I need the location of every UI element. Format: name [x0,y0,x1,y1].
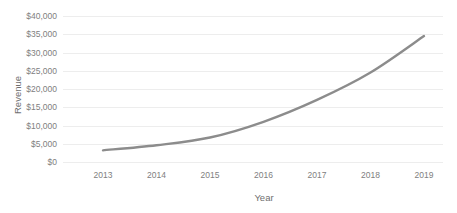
x-axis-tick-label: 2016 [254,170,273,180]
x-axis-tick-label: 2018 [361,170,380,180]
revenue-line-chart: $0$5,000$10,000$15,000$20,000$25,000$30,… [0,0,457,213]
x-axis-tick-label: 2019 [415,170,434,180]
y-axis-tick-label: $0 [48,157,58,167]
y-axis-tick-label: $35,000 [26,29,57,39]
chart-background [0,0,457,213]
y-axis-tick-labels: $0$5,000$10,000$15,000$20,000$25,000$30,… [26,11,57,167]
y-axis-tick-label: $10,000 [26,121,57,131]
x-axis-tick-label: 2017 [308,170,327,180]
y-axis-tick-label: $20,000 [26,84,57,94]
y-axis-tick-label: $5,000 [31,139,57,149]
x-axis-tick-label: 2015 [201,170,220,180]
x-axis-tick-label: 2013 [94,170,113,180]
y-axis-tick-label: $40,000 [26,11,57,21]
chart-canvas: $0$5,000$10,000$15,000$20,000$25,000$30,… [0,0,457,213]
y-axis-title: Revenue [12,76,23,114]
x-axis-tick-label: 2014 [147,170,166,180]
x-axis-title: Year [254,192,273,203]
y-axis-tick-label: $15,000 [26,102,57,112]
y-axis-tick-label: $30,000 [26,48,57,58]
y-axis-tick-label: $25,000 [26,66,57,76]
